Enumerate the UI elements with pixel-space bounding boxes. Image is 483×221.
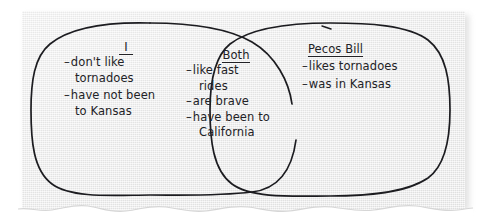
center-item-0-line-1: rides <box>199 79 228 93</box>
center-list-item: –have been to <box>186 110 290 126</box>
center-item-2-line-0: have been to <box>193 110 270 124</box>
right-list-item: –was in Kansas <box>302 77 442 93</box>
right-circle-content: Pecos Bill –likes tornadoes –was in Kans… <box>302 38 442 92</box>
left-circle-heading: I <box>119 41 133 55</box>
bullet-dash: – <box>302 77 308 91</box>
left-item-0-line-1: tornadoes <box>75 71 134 85</box>
left-list-item: –don't like <box>64 55 184 71</box>
center-item-0-line-0: like fast <box>193 63 239 77</box>
bullet-dash: – <box>302 59 308 73</box>
right-list-item: –likes tornadoes <box>302 59 442 75</box>
bullet-dash: – <box>64 55 70 69</box>
right-circle-heading: Pecos Bill <box>308 43 363 57</box>
center-overlap-content: Both –like fast rides –are brave –have b… <box>186 44 290 141</box>
bullet-dash: – <box>186 110 192 124</box>
bullet-dash: – <box>186 63 192 77</box>
center-item-0-line-1-wrap: rides <box>186 79 290 95</box>
center-item-1-line-0: are brave <box>193 94 249 108</box>
center-list-item: –like fast <box>186 63 290 79</box>
center-heading-wrap: Both <box>186 44 286 63</box>
left-heading-wrap: I <box>64 36 186 55</box>
bullet-dash: – <box>64 88 70 102</box>
bullet-dash: – <box>186 94 192 108</box>
right-item-0-line-0: likes tornadoes <box>309 59 398 73</box>
left-item-1-line-0: have not been <box>71 88 155 102</box>
left-item-0-line-0: don't like <box>71 55 125 69</box>
left-item-0-line-1-wrap: tornadoes <box>64 71 184 87</box>
center-item-2-line-1-wrap: California <box>186 125 290 141</box>
left-list-item: –have not been <box>64 88 184 104</box>
center-overlap-heading: Both <box>222 49 249 63</box>
left-circle-content: I –don't like tornadoes –have not been t… <box>64 36 184 119</box>
right-heading-wrap: Pecos Bill <box>302 38 444 57</box>
center-list-item: –are brave <box>186 94 290 110</box>
left-item-1-line-1: to Kansas <box>75 104 132 118</box>
left-item-1-line-1-wrap: to Kansas <box>64 104 184 120</box>
center-item-2-line-1: California <box>199 125 255 139</box>
worksheet-scene: I –don't like tornadoes –have not been t… <box>0 0 483 221</box>
right-item-1-line-0: was in Kansas <box>309 77 391 91</box>
